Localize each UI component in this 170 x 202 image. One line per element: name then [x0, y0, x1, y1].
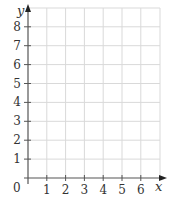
grid-lines [28, 8, 160, 178]
y-tick-label: 2 [13, 133, 21, 147]
x-tick-label: 3 [81, 183, 89, 197]
y-tick-label: 4 [13, 95, 21, 109]
y-tick-label: 7 [13, 39, 21, 53]
x-tick-label: 4 [99, 183, 107, 197]
y-axis-label: y [16, 3, 25, 18]
x-tick-label: 6 [137, 183, 145, 197]
x-axis-label: x [155, 179, 163, 194]
coordinate-grid-chart: 12345612345678 x y 0 [0, 0, 170, 202]
x-tick-label: 5 [118, 183, 126, 197]
ticks [24, 27, 141, 181]
y-tick-label: 3 [13, 114, 21, 128]
y-tick-label: 5 [13, 77, 21, 91]
y-tick-label: 1 [13, 152, 21, 166]
y-tick-label: 8 [13, 20, 21, 34]
x-tick-label: 1 [43, 183, 51, 197]
tick-labels: 12345612345678 [13, 20, 144, 197]
axes [24, 4, 167, 184]
origin-label: 0 [13, 181, 21, 195]
y-tick-label: 6 [13, 58, 21, 72]
x-tick-label: 2 [62, 183, 70, 197]
